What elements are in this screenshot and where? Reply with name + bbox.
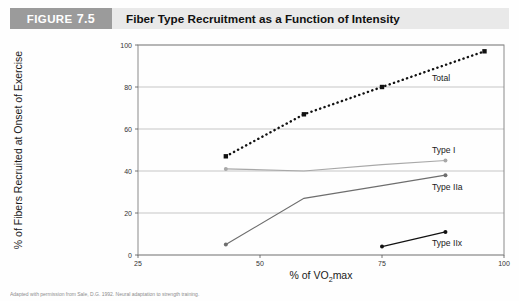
chart-svg: 020406080100 255075100 TotalType IType I… xyxy=(0,0,519,301)
y-axis-ticks: 020406080100 xyxy=(120,42,138,259)
data-point xyxy=(224,243,228,247)
y-tick-label: 0 xyxy=(128,252,132,259)
series-line-type-iia xyxy=(226,175,446,244)
data-point xyxy=(302,112,306,116)
data-point xyxy=(224,154,228,158)
y-tick-label: 60 xyxy=(124,126,132,133)
data-point xyxy=(443,173,447,177)
y-tick-label: 80 xyxy=(124,84,132,91)
data-point xyxy=(443,230,447,234)
y-tick-label: 100 xyxy=(120,42,132,49)
data-point xyxy=(224,167,228,171)
x-tick-label: 25 xyxy=(134,260,142,267)
x-tick-label: 50 xyxy=(256,260,264,267)
x-tick-label: 75 xyxy=(378,260,386,267)
y-tick-label: 20 xyxy=(124,210,132,217)
y-axis-label: % of Fibers Recruited at Onset of Exerci… xyxy=(12,51,24,250)
series-line-type-i xyxy=(226,161,446,172)
data-point xyxy=(380,85,384,89)
series-label-type-iia: Type IIa xyxy=(432,182,463,192)
series-label-type-i: Type I xyxy=(432,145,455,155)
series-line-total xyxy=(226,51,485,156)
chart-area: 020406080100 255075100 TotalType IType I… xyxy=(0,0,519,301)
x-tick-label: 100 xyxy=(498,260,510,267)
data-point xyxy=(443,159,447,163)
x-axis-ticks: 255075100 xyxy=(134,255,510,267)
x-axis-label: % of VO2max xyxy=(290,269,354,284)
xlabel-post: max xyxy=(333,269,354,281)
series-label-type-iix: Type IIx xyxy=(432,238,463,248)
figure-caption: Adapted with permission from Sale, D.G. … xyxy=(10,291,510,297)
figure-root: FIGURE 7.5 Fiber Type Recruitment as a F… xyxy=(0,0,519,301)
y-tick-label: 40 xyxy=(124,168,132,175)
data-point xyxy=(380,245,384,249)
series-label-total: Total xyxy=(432,73,450,83)
xlabel-pre: % of VO xyxy=(290,269,329,281)
data-point xyxy=(482,49,486,53)
